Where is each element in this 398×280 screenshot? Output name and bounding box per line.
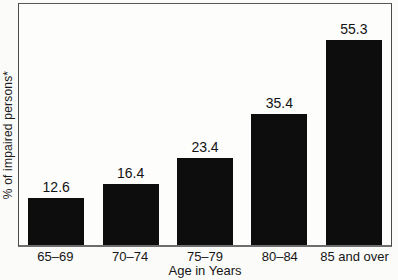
bar-value-label: 55.3 bbox=[340, 22, 367, 37]
bar bbox=[251, 114, 307, 245]
x-tick-label: 80–84 bbox=[242, 250, 317, 264]
x-tick-labels: 65–6970–7475–7980–8485 and over bbox=[18, 250, 392, 264]
bar-slot: 55.3 bbox=[317, 4, 391, 245]
x-tick-label: 85 and over bbox=[317, 250, 392, 264]
plot-area: 12.616.423.435.455.3 bbox=[18, 3, 392, 247]
bar-value-label: 35.4 bbox=[266, 96, 293, 111]
bar-slot: 16.4 bbox=[93, 4, 167, 245]
y-axis-label: % of impaired persons* bbox=[1, 57, 15, 213]
x-tick-label: 70–74 bbox=[93, 250, 168, 264]
x-tick-label: 75–79 bbox=[168, 250, 243, 264]
bar-slot: 23.4 bbox=[168, 4, 242, 245]
bar bbox=[177, 158, 233, 245]
bars-container: 12.616.423.435.455.3 bbox=[19, 4, 391, 245]
bar bbox=[103, 184, 159, 245]
bar-chart-figure: % of impaired persons* 12.616.423.435.45… bbox=[0, 0, 398, 280]
bar-slot: 12.6 bbox=[19, 4, 93, 245]
x-axis-label: Age in Years bbox=[18, 264, 392, 278]
bar bbox=[326, 40, 382, 245]
bar-slot: 35.4 bbox=[242, 4, 316, 245]
bar-value-label: 16.4 bbox=[117, 166, 144, 181]
x-tick-label: 65–69 bbox=[18, 250, 93, 264]
bar-value-label: 12.6 bbox=[43, 180, 70, 195]
bar-value-label: 23.4 bbox=[191, 140, 218, 155]
bar bbox=[28, 198, 84, 245]
